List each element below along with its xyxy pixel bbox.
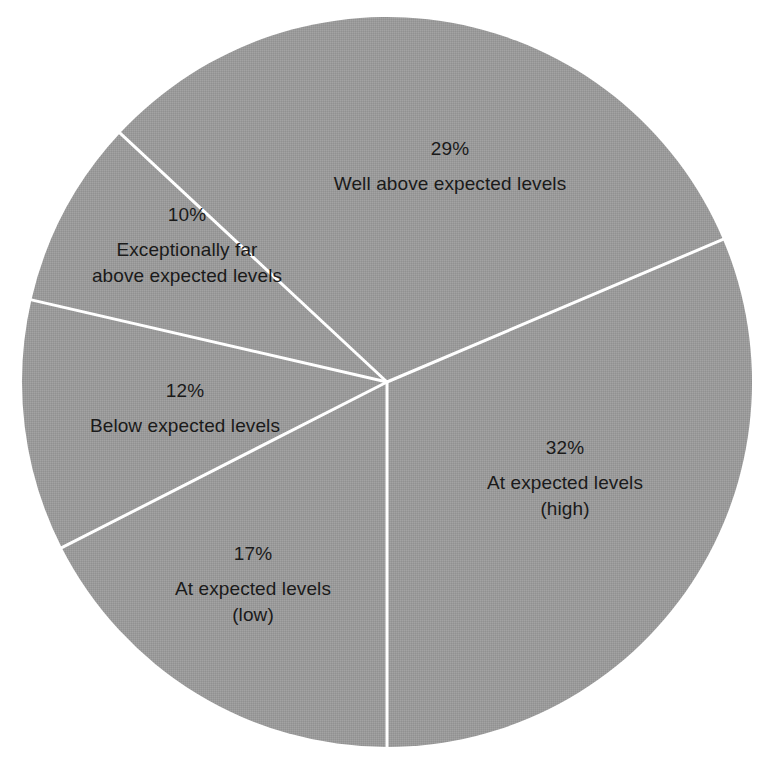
pie-chart: 32%At expected levels(high)17%At expecte…	[0, 0, 775, 759]
pie-chart-svg	[0, 0, 775, 759]
